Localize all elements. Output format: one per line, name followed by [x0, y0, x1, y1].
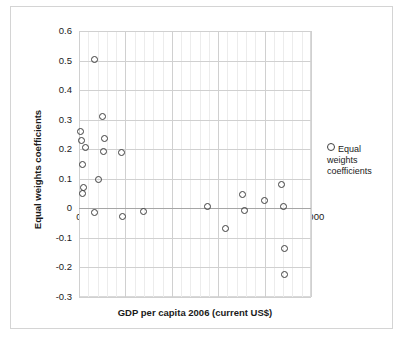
gridline-horizontal-major [79, 90, 311, 91]
plot-background [79, 31, 311, 297]
gridline-vertical-minor [274, 31, 275, 297]
gridline-vertical-minor [107, 31, 108, 297]
scatter-point [119, 213, 126, 220]
scatter-point [95, 176, 102, 183]
scatter-point [79, 190, 86, 197]
gridline-vertical-minor [237, 31, 238, 297]
gridline-vertical-minor [246, 31, 247, 297]
gridline-horizontal-major [79, 267, 311, 268]
y-axis-tick-label: -0.3 [32, 292, 72, 302]
gridline-horizontal-major [79, 31, 311, 32]
gridline-vertical-minor [153, 31, 154, 297]
y-axis-tick-label: 0.4 [32, 85, 72, 95]
gridline-vertical-major [265, 31, 266, 297]
scatter-point [280, 203, 287, 210]
gridline-vertical-minor [144, 31, 145, 297]
chart-frame: Equal weights coefficients GDP per capit… [10, 6, 393, 329]
y-axis-tick-label: 0.5 [32, 56, 72, 66]
scatter-point [222, 225, 229, 232]
x-axis-title: GDP per capita 2006 (current US$) [79, 307, 311, 318]
y-axis-tick-label: 0.1 [32, 174, 72, 184]
gridline-horizontal-major [79, 61, 311, 62]
scatter-point [118, 149, 125, 156]
gridline-vertical-minor [209, 31, 210, 297]
gridline-horizontal-major [79, 179, 311, 180]
gridline-vertical-minor [181, 31, 182, 297]
gridline-vertical-minor [200, 31, 201, 297]
gridline-vertical-minor [135, 31, 136, 297]
y-axis-tick-label: 0.3 [32, 115, 72, 125]
scatter-point [100, 148, 107, 155]
gridline-vertical-minor [302, 31, 303, 297]
scatter-point [77, 128, 84, 135]
open-circle-icon [327, 143, 335, 151]
axis-zero-line [79, 208, 311, 209]
legend: Equal weights coefficients [327, 143, 393, 177]
scatter-point [261, 197, 268, 204]
gridline-horizontal-major [79, 149, 311, 150]
gridline-vertical-minor [292, 31, 293, 297]
y-axis-tick-label: 0.6 [32, 26, 72, 36]
scatter-point [241, 207, 248, 214]
gridline-horizontal-major [79, 238, 311, 239]
gridline-vertical-minor [255, 31, 256, 297]
gridline-vertical-major [125, 31, 126, 297]
gridline-vertical-major [172, 31, 173, 297]
y-axis-tick-label: 0 [32, 203, 72, 213]
gridline-vertical-minor [88, 31, 89, 297]
y-axis-tick-label: 0.2 [32, 144, 72, 154]
scatter-point [91, 56, 98, 63]
y-axis-tick-label: -0.2 [32, 262, 72, 272]
gridline-vertical-minor [98, 31, 99, 297]
scatter-point [99, 113, 106, 120]
scatter-point [281, 245, 288, 252]
gridline-vertical-minor [283, 31, 284, 297]
gridline-vertical-major [311, 31, 312, 297]
y-axis-title: Equal weights coefficients [32, 90, 43, 250]
gridline-vertical-major [218, 31, 219, 297]
scatter-point [91, 209, 98, 216]
y-axis-tick-label: -0.1 [32, 233, 72, 243]
plot-area [79, 31, 311, 297]
gridline-vertical-minor [190, 31, 191, 297]
gridline-vertical-minor [227, 31, 228, 297]
gridline-horizontal-major [79, 297, 311, 298]
gridline-vertical-minor [116, 31, 117, 297]
gridline-vertical-minor [163, 31, 164, 297]
gridline-horizontal-major [79, 120, 311, 121]
